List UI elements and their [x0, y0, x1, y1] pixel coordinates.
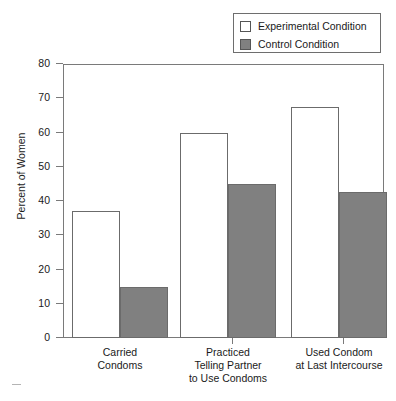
y-axis-tick-mark [56, 97, 63, 98]
y-axis-tick-mark [56, 132, 63, 133]
y-axis-tick-mark [56, 234, 63, 235]
page-corner-mark [12, 384, 21, 385]
y-axis-tick-label: 30 [22, 228, 50, 241]
y-axis-tick-label: 70 [22, 91, 50, 104]
y-axis-tick-label: 50 [22, 160, 50, 173]
y-axis-tick-mark [56, 337, 63, 338]
y-axis-tick-label: 80 [22, 57, 50, 70]
y-axis-tick-label: 10 [22, 297, 50, 310]
x-axis-category-label-3: Used Condomat Last Intercourse [269, 346, 396, 372]
bar-chart: Experimental Condition Control Condition… [0, 0, 396, 401]
x-axis-separator-tick [232, 338, 233, 344]
y-axis-tick-label: 0 [22, 331, 50, 344]
bar-experimental-group-2 [180, 133, 228, 339]
legend-label-control: Control Condition [258, 38, 339, 50]
bar-control-group-3 [339, 192, 387, 338]
category-label-line: to Use Condoms [158, 372, 298, 385]
category-label-line: Used Condom [269, 346, 396, 359]
bar-experimental-group-3 [291, 107, 339, 338]
y-axis-tick-mark [56, 200, 63, 201]
y-axis-tick-label: 60 [22, 126, 50, 139]
bar-control-group-2 [228, 184, 276, 338]
category-label-line: at Last Intercourse [269, 359, 396, 372]
y-axis-tick-label: 20 [22, 263, 50, 276]
y-axis-tick-mark [56, 303, 63, 304]
bar-experimental-group-1 [72, 211, 120, 338]
bars-layer [63, 64, 384, 338]
bar-control-group-1 [120, 287, 168, 338]
y-axis-tick-label: 40 [22, 194, 50, 207]
y-axis-tick-mark [56, 63, 63, 64]
legend-label-experimental: Experimental Condition [258, 20, 367, 32]
chart-legend: Experimental Condition Control Condition [233, 13, 381, 53]
legend-item-experimental: Experimental Condition [240, 18, 380, 34]
x-axis-separator-tick [343, 338, 344, 344]
y-axis-tick-mark [56, 269, 63, 270]
legend-swatch-control-icon [240, 39, 251, 50]
legend-swatch-experimental-icon [240, 21, 251, 32]
legend-item-control: Control Condition [240, 36, 380, 52]
y-axis-tick-mark [56, 166, 63, 167]
